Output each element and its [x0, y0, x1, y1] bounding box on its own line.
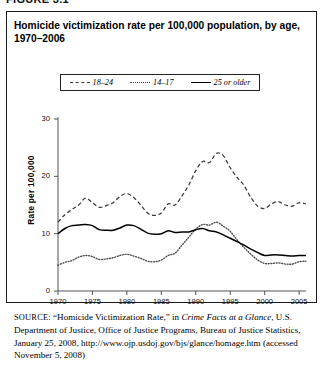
x-tick-label: 1995 — [215, 297, 245, 306]
x-tick-label: 1980 — [112, 297, 142, 306]
chart-title: Homicide victimization rate per 100,000 … — [14, 19, 306, 45]
y-tick-label: 10 — [28, 229, 50, 238]
x-tick-label: 2005 — [284, 297, 314, 306]
dashed-line-swatch — [70, 79, 90, 86]
chart-legend: 18–24 14–17 25 or older — [60, 74, 260, 91]
source-italic-title: Crime Facts at a Glance — [181, 312, 271, 322]
x-tick-label: 1975 — [77, 297, 107, 306]
y-tick-label: 0 — [28, 286, 50, 295]
x-tick-label: 1970 — [43, 297, 73, 306]
legend-label: 18–24 — [93, 78, 113, 87]
x-tick-label: 2000 — [250, 297, 280, 306]
x-tick-label: 1985 — [146, 297, 176, 306]
figure-box — [6, 11, 317, 303]
legend-label: 14–17 — [153, 78, 173, 87]
source-text-1: : “Homicide Victimization Rate,” in — [48, 312, 181, 322]
y-tick-label: 20 — [28, 171, 50, 180]
source-prefix: SOURCE — [14, 313, 48, 322]
figure-label: FIGURE 3.1 — [6, 0, 69, 7]
legend-item-14-17: 14–17 — [130, 78, 173, 87]
legend-item-18-24: 18–24 — [70, 78, 113, 87]
y-axis-label: Rate per 100,000 — [26, 145, 36, 235]
figure-container: FIGURE 3.1 Homicide victimization rate p… — [0, 0, 324, 377]
legend-item-25-or-older: 25 or older — [191, 78, 251, 87]
legend-label: 25 or older — [214, 78, 251, 87]
source-note: SOURCE: “Homicide Victimization Rate,” i… — [14, 311, 310, 362]
dotted-line-swatch — [130, 79, 150, 86]
y-tick-label: 30 — [28, 114, 50, 123]
x-tick-label: 1990 — [181, 297, 211, 306]
solid-line-swatch — [191, 79, 211, 86]
